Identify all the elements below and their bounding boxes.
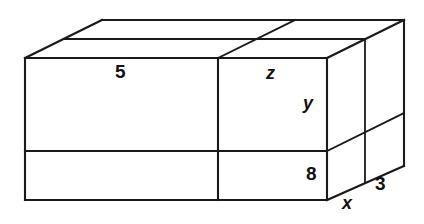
label-upper-height: y [303,94,313,112]
label-lower-height: 8 [306,164,317,183]
box-diagram-svg [0,0,424,224]
label-top-length: 5 [115,62,126,81]
label-side-depth: 3 [375,174,386,193]
label-top-depth: z [266,64,275,82]
label-front-depth: x [342,194,352,212]
front-face [25,58,327,200]
box-figure: 5 z y 8 x 3 [0,0,424,224]
